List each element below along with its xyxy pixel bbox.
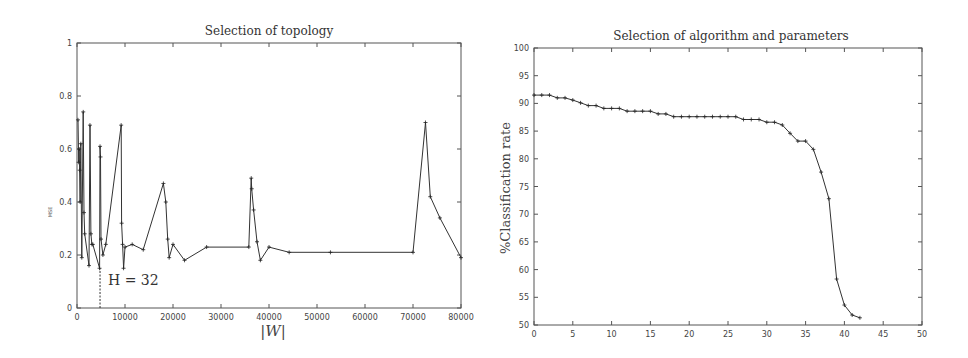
x-tick-label: 10000 <box>112 313 137 322</box>
y-tick-label: 65 <box>519 238 529 247</box>
x-tick-label: 5 <box>570 330 575 339</box>
chart-title: Selection of topology <box>205 24 334 38</box>
y-tick-label: 60 <box>519 266 529 275</box>
x-tick-label: 25 <box>723 330 733 339</box>
y-tick-label: 1 <box>67 39 72 48</box>
y-tick-label: 100 <box>514 44 529 53</box>
x-tick-label: 10 <box>607 330 617 339</box>
y-tick-label: 0.8 <box>59 92 72 101</box>
y-tick-label: 50 <box>519 321 529 330</box>
plot-frame <box>534 48 922 325</box>
series-markers <box>532 93 862 320</box>
x-tick-label: 15 <box>645 330 655 339</box>
y-tick-label: 90 <box>519 99 529 108</box>
topology-chart: Selection of topology 010000200003000040… <box>47 24 474 340</box>
y-tick-label: 70 <box>519 210 529 219</box>
x-tick-label: 20 <box>684 330 694 339</box>
y-tick-label: 75 <box>519 183 529 192</box>
y-tick-label: 0.2 <box>59 251 72 260</box>
x-tick-label: 60000 <box>352 313 377 322</box>
x-tick-label: 30000 <box>208 313 233 322</box>
x-tick-label: 0 <box>531 330 536 339</box>
y-tick-label: 0.4 <box>59 198 72 207</box>
annotation-label: H = 32 <box>108 272 159 288</box>
series-line <box>534 95 860 318</box>
y-tick-label: 95 <box>519 72 529 81</box>
axis-ticks <box>534 48 922 325</box>
x-tick-label: 30 <box>762 330 772 339</box>
series-markers <box>76 110 463 270</box>
series-line <box>78 112 461 268</box>
y-axis-label: %Classification rate <box>498 122 513 254</box>
tick-labels: 0510152025303540455050556065707580859095… <box>514 44 927 339</box>
x-tick-label: 40 <box>839 330 849 339</box>
x-tick-label: 35 <box>801 330 811 339</box>
y-tick-label: 0.6 <box>59 145 72 154</box>
x-tick-label: 70000 <box>400 313 425 322</box>
x-tick-label: 40000 <box>256 313 281 322</box>
y-tick-label: 85 <box>519 127 529 136</box>
y-tick-label: 55 <box>519 293 529 302</box>
axis-ticks <box>77 43 461 308</box>
algorithm-chart: Selection of algorithm and parameters 05… <box>498 29 927 339</box>
plot-frame <box>77 43 461 308</box>
chart-title: Selection of algorithm and parameters <box>613 29 849 43</box>
x-tick-label: 20000 <box>160 313 185 322</box>
x-tick-label: 0 <box>74 313 79 322</box>
x-tick-label: 45 <box>878 330 888 339</box>
x-tick-label: 80000 <box>448 313 473 322</box>
figure: Selection of topology 010000200003000040… <box>0 0 968 358</box>
x-tick-label: 50000 <box>304 313 329 322</box>
y-tick-label: 0 <box>67 304 72 313</box>
y-axis-label: MSE <box>47 207 53 218</box>
y-tick-label: 80 <box>519 155 529 164</box>
x-axis-label: |W| <box>260 322 286 340</box>
x-tick-label: 50 <box>917 330 927 339</box>
